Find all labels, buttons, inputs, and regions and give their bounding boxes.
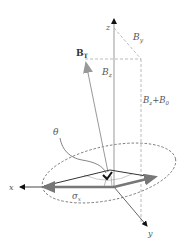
precession-ellipse <box>37 132 181 213</box>
angle-marker-icon <box>103 172 112 179</box>
right-edge-line <box>110 170 152 177</box>
z-axis-label: z <box>105 23 111 32</box>
sigma-x-label: σx <box>72 191 82 202</box>
bt-label: BT <box>76 48 89 59</box>
x-axis-label: x <box>9 183 14 192</box>
bz-label: Bz <box>101 67 113 78</box>
left-edge-line <box>44 170 110 186</box>
field-vector-diagram: z x y θ BT By Bz Bz+B0 σx <box>0 0 190 250</box>
cone-line-2 <box>111 176 112 187</box>
y-axis <box>114 187 147 226</box>
by-label: By <box>132 32 144 44</box>
bt-vector <box>86 63 108 172</box>
bz-plus-b0-label: Bz+B0 <box>142 95 170 106</box>
y-axis-label: y <box>147 229 153 238</box>
theta-pointer-curve <box>60 138 106 173</box>
theta-label: θ <box>53 127 59 137</box>
